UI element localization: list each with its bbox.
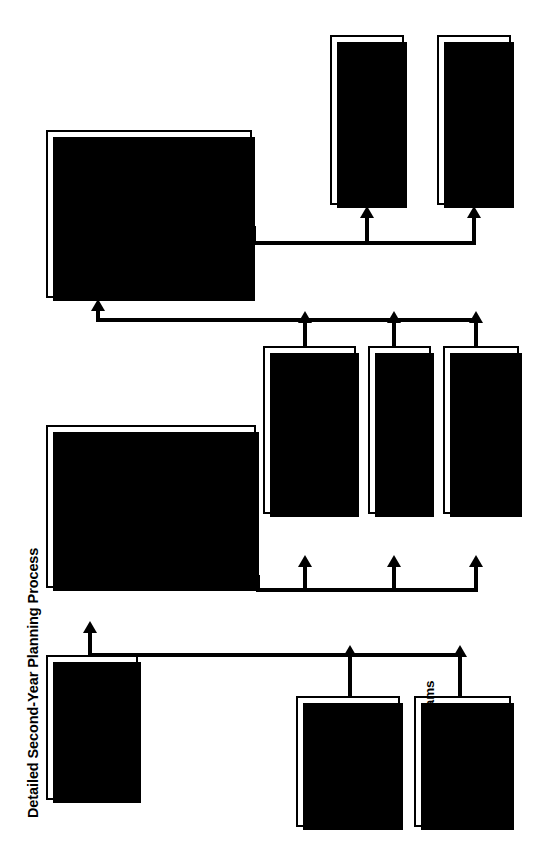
node-scorecards[interactable]: Scorecards Final top-team, departmental,… — [437, 35, 511, 205]
list-item: Operating — [314, 355, 328, 498]
list-item: Update short-term and strategic objectiv… — [192, 139, 220, 293]
node-bullet-list: Pick and fund priority issue action plan… — [84, 139, 220, 293]
list-item: Review personnel ABCDs and take action. — [161, 139, 189, 293]
node-title: Program Teams — [376, 355, 391, 509]
list-item: Pick teams. — [115, 139, 129, 293]
triangle-bullet-icon — [318, 492, 326, 498]
list-item: Review departmental plans and give direc… — [190, 434, 218, 583]
node-body: Update environmental and market analysis… — [69, 664, 97, 795]
node-departments-plans[interactable]: Departments Complete departmental plans:… — [263, 346, 356, 514]
connector-departments-plans-riser — [303, 566, 307, 592]
list-item: Develop priority issues. — [220, 434, 234, 583]
list-item: Review implementation process. — [115, 434, 143, 583]
node-title: Departments — [271, 355, 286, 509]
node-body: Complete departmental plans: — [286, 355, 314, 509]
connector-departments-plans-top-riser — [303, 322, 307, 346]
node-title: Implementation Teams — [422, 705, 437, 822]
arrowhead-departments-plans — [298, 555, 312, 567]
node-sub-bullet-list: Operating Strategic — [314, 355, 342, 509]
connector-implementation-teams-riser — [458, 656, 462, 696]
node-body: Conduct departmental planning and dip-do… — [319, 705, 376, 822]
node-subtitle: Meeting: — [69, 139, 84, 293]
node-implementation-teams[interactable]: Implementation Teams Prepare update on i… — [414, 696, 511, 827]
triangle-bullet-icon — [193, 577, 201, 583]
triangle-bullet-icon — [196, 287, 204, 293]
triangle-bullet-icon — [88, 287, 96, 293]
node-body: Prepare update on implementation process… — [437, 705, 479, 822]
arrowhead-individuals — [469, 555, 483, 567]
node-title: Budget — [361, 99, 376, 144]
triangle-bullet-icon — [88, 577, 96, 583]
node-title: Scorecards — [445, 44, 460, 200]
list-item: Strategic — [329, 355, 343, 498]
arrowhead-up-program-teams — [387, 311, 401, 323]
connector-budget-riser — [365, 217, 369, 245]
triangle-bullet-icon — [149, 577, 157, 583]
arrowhead-departments-conduct — [343, 645, 357, 657]
triangle-bullet-icon — [135, 287, 143, 293]
list-item: Pick and fund priority issue action plan… — [84, 139, 112, 293]
node-budget[interactable]: Budget — [330, 35, 404, 205]
node-program-teams[interactable]: Program Teams Complete draft program pla… — [368, 346, 431, 514]
page-title: Detailed Second-Year Planning Process — [22, 518, 44, 818]
node-title: Departments — [304, 705, 319, 822]
arrowhead-to-priority-setting — [83, 621, 97, 633]
triangle-bullet-icon — [118, 577, 126, 583]
arrowhead-implementation-teams — [453, 645, 467, 657]
list-item: Review changes in internal/external worl… — [84, 434, 112, 583]
node-body: Final top-team, departmental, and indivi… — [460, 44, 502, 200]
list-item: Review progress on direction statement a… — [145, 434, 187, 583]
node-priority-setting[interactable]: Priority-Setting Meeting: Review changes… — [46, 425, 256, 588]
connector-individuals-top-riser — [474, 322, 478, 346]
triangle-bullet-icon — [118, 287, 126, 293]
node-title: Priority-Setting — [54, 434, 69, 583]
connector-bus-to-priority-setting — [88, 653, 460, 657]
arrowhead-program-teams — [387, 555, 401, 567]
node-body: Complete draft program plans. — [391, 355, 419, 509]
node-subtitle: Meeting: — [69, 434, 84, 583]
node-body: Define their part of departmental plan. … — [466, 355, 508, 509]
triangle-bullet-icon — [165, 287, 173, 293]
list-item: Approve final depart-mental plans and fu… — [131, 139, 159, 293]
node-bullet-list: Review changes in internal/external worl… — [84, 434, 234, 583]
node-departments-conduct[interactable]: Departments Conduct departmental plannin… — [296, 696, 400, 827]
connector-scorecards-riser — [472, 217, 476, 245]
connector-resource-allocation-riser — [96, 310, 100, 322]
connector-midcolumn-to-resource-bus — [96, 318, 478, 322]
arrowhead-up-departments-plans — [298, 311, 312, 323]
node-top-team[interactable]: Top Team Update environmental and market… — [46, 655, 138, 800]
node-title: Individuals — [451, 355, 466, 509]
connector-program-teams-riser — [392, 566, 396, 592]
connector-resource-to-outputs-bus — [252, 241, 476, 245]
connector-program-teams-top-riser — [392, 322, 396, 346]
connector-individuals-riser — [474, 566, 478, 592]
triangle-bullet-icon — [224, 577, 232, 583]
connector-priority-to-midcolumn-bus — [256, 588, 478, 592]
node-title: Resource Allocation — [54, 139, 69, 293]
triangle-bullet-icon — [332, 492, 340, 498]
connector-departments-conduct-riser — [348, 656, 352, 696]
diagram-canvas: Detailed Second-Year Planning Process Re… — [0, 0, 544, 844]
node-resource-allocation[interactable]: Resource Allocation Meeting: Pick and fu… — [46, 130, 252, 298]
arrowhead-up-individuals — [469, 311, 483, 323]
node-title: Top Team — [54, 664, 69, 795]
node-individuals[interactable]: Individuals Define their part of departm… — [443, 346, 519, 514]
